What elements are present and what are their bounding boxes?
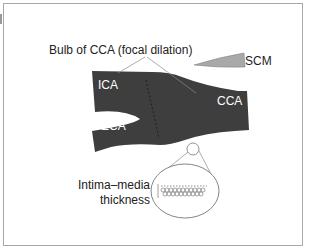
- label-imt-line1: Intima–media: [72, 178, 150, 193]
- label-imt-line2: thickness: [72, 193, 150, 208]
- scm-muscle: [194, 53, 245, 67]
- magnify-circle: [187, 143, 199, 155]
- label-ica: ICA: [98, 79, 118, 91]
- label-bulb: Bulb of CCA (focal dilation): [49, 44, 192, 56]
- bulb-callout-line-1: [118, 57, 145, 73]
- label-scm: SCM: [245, 55, 272, 67]
- label-eca: ECA: [101, 120, 126, 132]
- carotid-diagram: [0, 0, 309, 251]
- label-imt: Intima–media thickness: [72, 178, 150, 208]
- label-cca: CCA: [217, 95, 242, 107]
